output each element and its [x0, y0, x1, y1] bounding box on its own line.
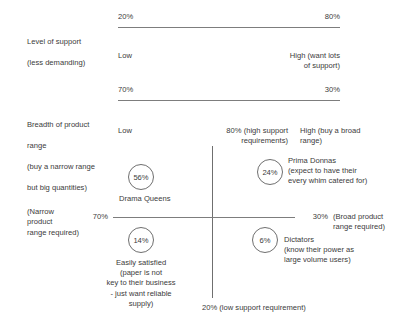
quadrant-description-easily-satisfied: (paper is not key to their business - ju…	[82, 268, 200, 310]
quadrant-label-easily-satisfied: Easily satisfied	[91, 258, 191, 268]
quadrant-bubble-prima-donnas: 24%	[257, 159, 283, 185]
scale-support-left-value: 20%	[118, 12, 133, 22]
quadrant-bubble-easily-satisfied: 14%	[128, 227, 154, 253]
matrix-right-axis-note: (Broad product range required)	[333, 212, 405, 233]
quadrant-bubble-dictators: 6%	[252, 227, 278, 253]
scale-breadth-caption-line1: Breadth of product	[27, 120, 89, 129]
scale-breadth-line	[118, 100, 340, 101]
scale-breadth-left-anchor: Low	[118, 126, 132, 136]
scale-support-right-value: 80%	[300, 12, 340, 22]
scale-breadth-caption-line3: (buy a narrow range	[27, 162, 95, 171]
scale-breadth-caption-line4: but big quantities)	[27, 183, 87, 192]
quadrant-bubble-drama-queens: 56%	[128, 164, 154, 190]
scale-support-caption-line2: (less demanding)	[27, 58, 85, 67]
quadrant-label-dictators: Dictators	[284, 235, 384, 245]
matrix-bottom-axis-label: 20% (low support requirement)	[202, 303, 362, 313]
scale-breadth-right-value: 30%	[300, 85, 340, 95]
quadrant-label-prima-donnas: Prima Donnas	[288, 156, 398, 166]
scale-breadth-caption: Breadth of product range (buy a narrow r…	[27, 110, 123, 193]
matrix-vertical-axis	[212, 146, 213, 298]
scale-support-caption-line1: Level of support	[27, 37, 81, 46]
scale-support-caption: Level of support (less demanding)	[27, 27, 119, 69]
scale-breadth-right-anchor: High (buy a broad range)	[300, 126, 400, 147]
scale-support-line	[118, 27, 340, 28]
scale-support-right-anchor: High (want lots of support)	[250, 51, 340, 72]
quadrant-description-dictators: (know their power as large volume users)	[284, 245, 400, 266]
scale-breadth-left-value: 70%	[118, 85, 133, 95]
matrix-left-axis-note: (Narrow product range required)	[27, 207, 87, 238]
matrix-top-axis-label: 80% (high support requirements)	[196, 126, 288, 147]
quadrant-label-drama-queens: Drama Queens	[119, 194, 209, 204]
diagram-canvas: Level of support (less demanding) 20% 80…	[0, 0, 408, 333]
scale-support-left-anchor: Low	[118, 51, 132, 61]
scale-breadth-caption-line2: range	[27, 141, 46, 150]
matrix-right-axis-value: 30%	[300, 212, 328, 222]
quadrant-description-prima-donnas: (expect to have their every whim catered…	[288, 166, 400, 187]
matrix-horizontal-axis	[113, 217, 295, 218]
